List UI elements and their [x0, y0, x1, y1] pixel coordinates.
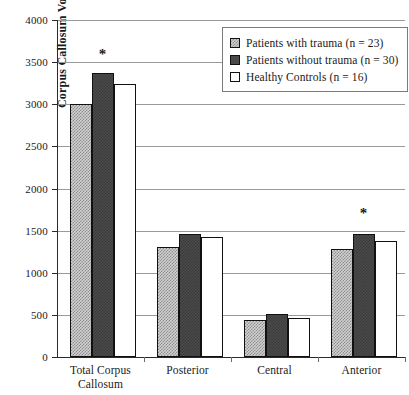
legend-item: Healthy Controls (n = 16) [230, 68, 398, 85]
x-axis-tick [318, 357, 319, 362]
significance-asterisk: * [99, 46, 107, 61]
y-axis-tick-label: 500 [0, 309, 48, 321]
x-axis-tick [405, 357, 406, 362]
bar [157, 247, 179, 357]
y-axis-tick-label: 3000 [0, 98, 48, 110]
legend-item-label: Healthy Controls (n = 16) [246, 71, 367, 83]
x-axis-tick [231, 357, 232, 362]
y-axis-tick-label: 4000 [0, 14, 48, 26]
x-axis-category-label: Posterior [144, 364, 231, 378]
legend-item: Patients with trauma (n = 23) [230, 34, 398, 51]
bar [244, 320, 266, 357]
bar-chart: Corpus Callosum Volume ** 05001000150020… [0, 0, 409, 395]
x-axis-category-label: Total CorpusCallosum [57, 364, 144, 391]
y-axis-tick-label: 2000 [0, 183, 48, 195]
y-axis-tick-label: 0 [0, 351, 48, 363]
y-axis-tick-label: 2500 [0, 140, 48, 152]
legend-item-label: Patients without trauma (n = 30) [246, 54, 398, 66]
bar [114, 84, 136, 357]
bar [353, 234, 375, 357]
legend: Patients with trauma (n = 23) Patients w… [222, 27, 408, 92]
bar [375, 241, 397, 357]
y-axis-tick-label: 1500 [0, 225, 48, 237]
bar [288, 318, 310, 357]
x-axis-category-label: Central [231, 364, 318, 378]
bar [331, 249, 353, 357]
bar [266, 314, 288, 357]
y-axis-tick-label: 3500 [0, 56, 48, 68]
legend-swatch-icon [230, 55, 240, 65]
x-axis-category-label: Anterior [318, 364, 405, 378]
bar [92, 73, 114, 357]
y-axis-tick-label: 1000 [0, 267, 48, 279]
y-axis-line [57, 20, 58, 358]
legend-swatch-icon [230, 72, 240, 82]
legend-item-label: Patients with trauma (n = 23) [246, 37, 383, 49]
bar [70, 104, 92, 357]
legend-item: Patients without trauma (n = 30) [230, 51, 398, 68]
bar [201, 237, 223, 357]
x-axis-tick [144, 357, 145, 362]
bar [179, 234, 201, 357]
bar-group [157, 20, 223, 357]
bar-group [70, 20, 136, 357]
legend-swatch-icon [230, 38, 240, 48]
significance-asterisk: * [360, 205, 368, 220]
